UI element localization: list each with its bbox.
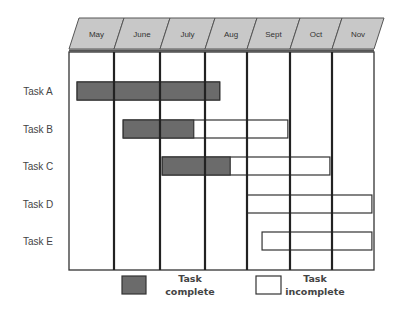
month-label: Sept: [265, 30, 282, 39]
legend-swatch-incomplete: [256, 276, 281, 294]
month-label: Nov: [351, 30, 365, 39]
legend: Task complete Task incomplete: [122, 273, 345, 297]
month-label: Aug: [224, 30, 238, 39]
month-header: MayJuneJulyAugSeptOctNov: [69, 18, 384, 51]
legend-label-complete-line1: Task: [178, 273, 202, 284]
month-label: July: [180, 30, 194, 39]
legend-label-incomplete-line1: Task: [303, 273, 327, 284]
task-label: Task C: [23, 161, 54, 172]
task-label: Task E: [23, 236, 53, 247]
task-labels: Task ATask BTask CTask DTask E: [23, 86, 54, 247]
task-bar-incomplete: [262, 232, 372, 250]
legend-label-incomplete-line2: incomplete: [285, 286, 345, 297]
task-bar-complete: [77, 82, 220, 100]
task-label: Task B: [23, 124, 53, 135]
legend-label-complete-line2: complete: [165, 286, 215, 297]
month-label: June: [133, 30, 151, 39]
task-bar-complete: [123, 120, 194, 138]
month-label: May: [89, 30, 104, 39]
task-label: Task D: [23, 199, 54, 210]
month-label: Oct: [310, 30, 323, 39]
task-bar-complete: [162, 157, 230, 175]
task-label: Task A: [23, 86, 53, 97]
legend-swatch-complete: [122, 276, 146, 294]
gantt-chart: MayJuneJulyAugSeptOctNov Task ATask BTas…: [0, 0, 403, 314]
task-bar-incomplete: [247, 195, 372, 213]
